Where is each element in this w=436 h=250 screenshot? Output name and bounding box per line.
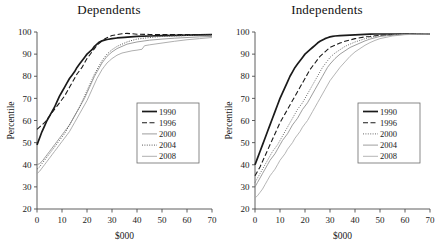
y-tick-label: 70 bbox=[241, 94, 251, 104]
plot-area-independents: 2030405060708090100010203040506070$000Pe… bbox=[218, 0, 436, 250]
y-tick-label: 90 bbox=[241, 49, 251, 59]
y-tick-label: 30 bbox=[23, 182, 33, 192]
x-tick-label: 40 bbox=[351, 215, 361, 225]
y-tick-label: 30 bbox=[241, 182, 251, 192]
legend-label-2000: 2000 bbox=[380, 129, 397, 139]
x-tick-label: 30 bbox=[326, 215, 336, 225]
legend-label-2008: 2008 bbox=[159, 151, 176, 161]
y-tick-label: 20 bbox=[23, 204, 33, 214]
y-tick-label: 50 bbox=[241, 138, 251, 148]
x-tick-label: 20 bbox=[301, 215, 311, 225]
legend-label-2004: 2004 bbox=[159, 140, 177, 150]
panel-dependents: Dependents 20304050607080901000102030405… bbox=[0, 0, 218, 250]
y-tick-label: 100 bbox=[236, 27, 250, 37]
x-tick-label: 60 bbox=[401, 215, 411, 225]
y-axis-title: Percentile bbox=[224, 102, 234, 140]
x-tick-label: 10 bbox=[58, 215, 68, 225]
x-tick-label: 0 bbox=[253, 215, 258, 225]
x-tick-label: 70 bbox=[208, 215, 218, 225]
y-tick-label: 90 bbox=[23, 49, 33, 59]
y-tick-label: 80 bbox=[241, 71, 251, 81]
panel-independents: Independents 203040506070809010001020304… bbox=[218, 0, 436, 250]
chart-svg-independents: 2030405060708090100010203040506070$000Pe… bbox=[218, 0, 436, 250]
x-tick-label: 50 bbox=[158, 215, 168, 225]
x-tick-label: 10 bbox=[276, 215, 286, 225]
legend-label-1996: 1996 bbox=[159, 118, 176, 128]
x-tick-label: 50 bbox=[376, 215, 386, 225]
x-tick-label: 60 bbox=[183, 215, 193, 225]
x-tick-label: 0 bbox=[35, 215, 40, 225]
x-tick-label: 70 bbox=[426, 215, 436, 225]
figure-container: Dependents 20304050607080901000102030405… bbox=[0, 0, 436, 250]
y-tick-label: 40 bbox=[241, 160, 251, 170]
y-tick-label: 50 bbox=[23, 138, 33, 148]
y-tick-label: 70 bbox=[23, 94, 33, 104]
y-tick-label: 20 bbox=[241, 204, 251, 214]
y-tick-label: 80 bbox=[23, 71, 33, 81]
legend-label-2004: 2004 bbox=[380, 140, 398, 150]
y-tick-label: 100 bbox=[18, 27, 32, 37]
legend-label-2008: 2008 bbox=[380, 151, 397, 161]
chart-svg-dependents: 2030405060708090100010203040506070$000Pe… bbox=[0, 0, 218, 250]
x-axis-title: $000 bbox=[115, 231, 134, 241]
y-tick-label: 40 bbox=[23, 160, 33, 170]
x-tick-label: 20 bbox=[83, 215, 93, 225]
x-axis-title: $000 bbox=[333, 231, 352, 241]
plot-area-dependents: 2030405060708090100010203040506070$000Pe… bbox=[0, 0, 218, 250]
legend-label-1990: 1990 bbox=[159, 107, 176, 117]
x-tick-label: 30 bbox=[108, 215, 118, 225]
legend-label-1990: 1990 bbox=[380, 107, 397, 117]
legend-label-2000: 2000 bbox=[159, 129, 176, 139]
legend-label-1996: 1996 bbox=[380, 118, 397, 128]
y-tick-label: 60 bbox=[241, 116, 251, 126]
y-tick-label: 60 bbox=[23, 116, 33, 126]
x-tick-label: 40 bbox=[133, 215, 143, 225]
y-axis-title: Percentile bbox=[6, 102, 16, 140]
